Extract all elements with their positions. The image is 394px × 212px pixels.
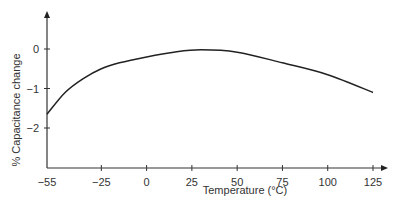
x-tick-label: 0 <box>144 176 150 188</box>
x-axis-label: Temperature (°C) <box>203 184 287 196</box>
chart-svg: −55−2502550751001250−1−2 Temperature (°C… <box>0 0 394 212</box>
capacitance-line <box>47 50 373 114</box>
x-tick-label: −25 <box>92 176 111 188</box>
y-tick-label: −2 <box>26 122 39 134</box>
x-tick-label: 125 <box>364 176 382 188</box>
x-tick-label: −55 <box>38 176 57 188</box>
capacitance-temperature-chart: −55−2502550751001250−1−2 Temperature (°C… <box>0 0 394 212</box>
data-curve <box>47 50 373 114</box>
axes: −55−2502550751001250−1−2 <box>26 11 388 188</box>
x-tick-label: 25 <box>186 176 198 188</box>
y-tick-label: 0 <box>33 43 39 55</box>
x-axis-arrow-icon <box>381 165 388 171</box>
y-tick-label: −1 <box>26 83 39 95</box>
x-tick-label: 100 <box>319 176 337 188</box>
y-axis-label: % Capacitance change <box>10 53 22 166</box>
y-axis-arrow-icon <box>44 11 50 18</box>
